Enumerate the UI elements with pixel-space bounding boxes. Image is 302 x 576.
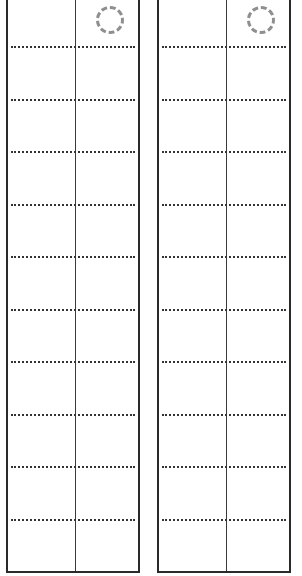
column-divider xyxy=(75,0,76,571)
row-divider xyxy=(162,204,286,206)
row-divider xyxy=(162,414,286,416)
row-divider xyxy=(162,46,286,48)
row-divider xyxy=(11,99,135,101)
row-divider xyxy=(11,256,135,258)
dashed-circle-icon xyxy=(96,6,124,34)
dashed-circle-icon xyxy=(247,6,275,34)
row-divider xyxy=(162,466,286,468)
row-divider xyxy=(162,256,286,258)
row-divider xyxy=(11,466,135,468)
grid-panel-right xyxy=(157,0,291,573)
row-divider xyxy=(162,361,286,363)
row-divider xyxy=(162,99,286,101)
row-divider xyxy=(11,151,135,153)
row-divider xyxy=(11,414,135,416)
row-divider xyxy=(162,519,286,521)
row-divider xyxy=(11,519,135,521)
row-divider xyxy=(11,204,135,206)
row-divider xyxy=(11,361,135,363)
column-divider xyxy=(226,0,227,571)
row-divider xyxy=(162,151,286,153)
row-divider xyxy=(11,46,135,48)
row-divider xyxy=(162,309,286,311)
row-divider xyxy=(11,309,135,311)
grid-panel-left xyxy=(6,0,140,573)
